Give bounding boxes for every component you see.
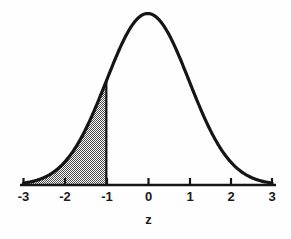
x-tick-label--1: -1 <box>101 189 113 204</box>
x-tick-label-0: 0 <box>145 189 152 204</box>
normal-curve-chart: -3 -2 -1 0 1 2 3 z <box>0 0 291 239</box>
x-tick-label--3: -3 <box>18 189 30 204</box>
normal-distribution-figure: -3 -2 -1 0 1 2 3 z <box>0 0 291 239</box>
x-tick-label--2: -2 <box>59 189 71 204</box>
x-tick-label-3: 3 <box>268 189 275 204</box>
x-tick-label-1: 1 <box>186 189 193 204</box>
x-tick-label-2: 2 <box>227 189 234 204</box>
x-axis-title: z <box>145 212 152 227</box>
